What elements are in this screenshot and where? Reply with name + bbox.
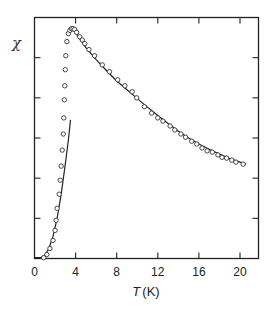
data-point [130, 90, 134, 94]
x-tick-label: 16 [192, 265, 206, 279]
data-point [179, 132, 183, 136]
data-point [195, 142, 199, 146]
data-point [55, 206, 59, 210]
data-point [200, 146, 204, 150]
data-point [149, 111, 153, 115]
data-point [57, 192, 61, 196]
data-point [220, 155, 224, 159]
data-point [64, 54, 68, 58]
data-point [224, 156, 228, 160]
data-point [205, 149, 209, 153]
data-point [59, 164, 63, 168]
data-point [183, 135, 187, 139]
x-tick-label: 8 [113, 265, 120, 279]
data-point [100, 63, 104, 67]
data-point [54, 218, 58, 222]
data-point [51, 238, 55, 242]
data-point [241, 162, 245, 166]
data-point [142, 105, 146, 109]
data-point [87, 47, 91, 51]
data-point [58, 178, 62, 182]
data-point [123, 84, 127, 88]
data-point [65, 39, 69, 43]
data-point [53, 228, 57, 232]
data-point [60, 148, 64, 152]
data-point [156, 116, 160, 120]
data-point [216, 153, 220, 157]
data-point [161, 119, 165, 123]
susceptibility-chart: 048121620 χ T(K) [0, 0, 272, 310]
x-axis-label: T(K) [132, 284, 159, 299]
data-point [210, 150, 214, 154]
data-point [62, 98, 66, 102]
x-tick-label: 12 [151, 265, 165, 279]
data-point [63, 68, 67, 72]
data-point [74, 30, 78, 34]
data-point [135, 96, 139, 100]
x-axis-label-symbol: T [132, 284, 141, 299]
data-points [42, 27, 246, 260]
data-point [107, 70, 111, 74]
data-point [168, 124, 172, 128]
x-axis-label-unit: (K) [142, 284, 159, 299]
tick-labels: 048121620 [31, 265, 247, 279]
data-point [45, 252, 49, 256]
x-tick-label: 0 [31, 265, 38, 279]
fit-line [35, 120, 71, 258]
data-point [61, 132, 65, 136]
x-tick-label: 20 [233, 265, 247, 279]
data-point [83, 41, 87, 45]
data-point [190, 139, 194, 143]
y-axis-label: χ [11, 34, 22, 52]
fit-line [70, 29, 246, 164]
data-point [48, 246, 52, 250]
fit-lines [35, 29, 247, 258]
data-point [116, 78, 120, 82]
x-tick-label: 4 [72, 265, 79, 279]
data-point [92, 54, 96, 58]
data-point [173, 128, 177, 132]
data-point [234, 160, 238, 164]
data-point [63, 84, 67, 88]
data-point [62, 116, 66, 120]
